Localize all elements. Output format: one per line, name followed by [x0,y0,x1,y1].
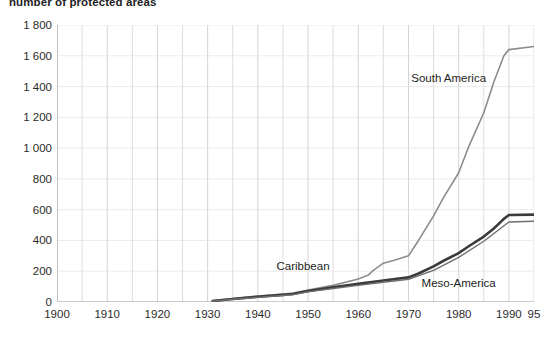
y-tick-label: 1 000 [23,142,52,154]
x-axis-tick-labels: 1900191019201930194019501960197019801990… [0,308,559,328]
y-tick-label: 1 600 [23,50,52,62]
y-tick-label: 1 400 [23,81,52,93]
y-tick-label: 400 [33,234,52,246]
series-annotations: South AmericaMeso-AmericaCaribbean [276,72,496,289]
y-axis-tick-labels: 02004006008001 0001 2001 4001 6001 800 [0,25,52,302]
y-tick-label: 0 [46,296,52,308]
x-tick-label: 1970 [396,308,422,320]
chart-title: number of protected areas [9,0,157,8]
x-tick-label: 1900 [44,308,70,320]
x-tick-label: 1960 [345,308,371,320]
series-label-caribbean: Caribbean [276,260,329,272]
x-tick-label: 1910 [94,308,120,320]
x-tick-label: 1930 [195,308,221,320]
horizontal-gridlines [57,25,534,271]
plot-area: South AmericaMeso-AmericaCaribbean [57,25,534,302]
x-tick-label: 1990 [496,308,522,320]
x-tick-label: 95 [528,308,541,320]
series-label-meso-america: Meso-America [422,277,497,289]
chart-figure: number of protected areas 02004006008001… [0,0,559,337]
x-tick-label: 1950 [295,308,321,320]
x-tick-label: 1940 [245,308,271,320]
series-line-south-america [213,47,534,301]
y-tick-label: 1 200 [23,111,52,123]
x-tick-label: 1920 [145,308,171,320]
x-tick-label: 1980 [446,308,472,320]
y-tick-label: 200 [33,265,52,277]
data-series-group [213,47,534,302]
series-label-south-america: South America [411,72,486,84]
y-tick-label: 1 800 [23,19,52,31]
y-tick-label: 800 [33,173,52,185]
y-tick-label: 600 [33,204,52,216]
